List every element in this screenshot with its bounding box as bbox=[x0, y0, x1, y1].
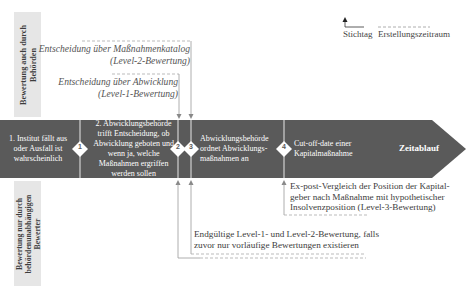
annotation-level1-decision: Entscheidung über Abwicklung (Level-1-Be… bbox=[58, 76, 178, 99]
marker-2-label: 2 bbox=[174, 143, 182, 150]
timeline-step-4: Cut-off-date einer Kapitalmaßnahme bbox=[294, 120, 384, 178]
marker-4-label: 4 bbox=[280, 143, 288, 150]
annotation-final-valuation: Endgültige Level-1- und Level-2-Bewertun… bbox=[194, 229, 379, 250]
level2-arrowhead-icon bbox=[189, 114, 194, 119]
annotation-level3-comparison: Ex-post-Vergleich der Position der Kapit… bbox=[290, 181, 450, 213]
timeline-label: Zeitablauf bbox=[399, 143, 439, 153]
marker-3-label: 3 bbox=[187, 143, 195, 150]
annotation-level2-decision: Entscheidung über Maßnahmenkatalog (Leve… bbox=[39, 43, 190, 66]
legend-stichtag-label: Stichtag bbox=[343, 29, 373, 39]
level1-arrowhead-icon bbox=[177, 114, 182, 119]
legend-stichtag-arrow-icon bbox=[343, 17, 348, 22]
marker-1-label: 1 bbox=[76, 143, 84, 150]
legend-erstellungszeitraum-label: Erstellungszeitraum bbox=[378, 29, 450, 39]
timeline-step-2: 2. Abwicklungsbehörde trifft Entscheidun… bbox=[84, 120, 174, 178]
timeline-step-3: Abwicklungsbehörde ordnet Abwicklungs- m… bbox=[200, 120, 280, 178]
timeline-step-1: 1. Institut fällt aus oder Ausfall ist w… bbox=[2, 120, 74, 178]
